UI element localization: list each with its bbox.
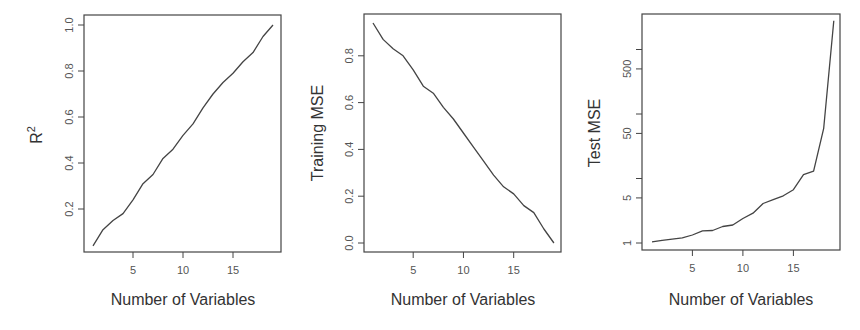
chart-figure: 0.20.40.60.81.0 51015 Number of Variable… — [0, 0, 860, 330]
y-tick-label: 500 — [621, 60, 633, 78]
x-tick-label: 5 — [410, 264, 416, 276]
panel-training-mse: 0.00.20.40.60.8 51015 Number of Variable… — [309, 14, 561, 308]
panel-r-squared: 0.20.40.60.81.0 51015 Number of Variable… — [25, 15, 281, 308]
y-tick-label: 50 — [621, 127, 633, 139]
test-mse-line — [652, 21, 834, 242]
y-tick-label: 0.6 — [343, 95, 355, 110]
y-tick-label: 1.0 — [63, 17, 75, 32]
y-axis: 1550500 — [621, 50, 642, 247]
x-tick-label: 5 — [689, 262, 695, 274]
y-axis: 0.20.40.60.81.0 — [63, 17, 84, 216]
y-tick-label: 0.4 — [343, 142, 355, 157]
y-tick-label: 0.0 — [343, 235, 355, 250]
y-tick-label: 0.2 — [63, 201, 75, 216]
plot-frame — [642, 14, 840, 250]
x-axis: 51015 — [410, 252, 520, 276]
y-tick-label: 1 — [621, 240, 633, 246]
y-tick-label: 0.8 — [343, 48, 355, 63]
x-axis-label: Number of Variables — [391, 291, 536, 308]
x-tick-label: 10 — [457, 264, 469, 276]
x-tick-label: 5 — [130, 264, 136, 276]
y-tick-label: 0.6 — [63, 109, 75, 124]
x-axis-label: Number of Variables — [669, 291, 814, 308]
training-mse-line — [373, 23, 554, 243]
x-axis: 51015 — [689, 250, 799, 274]
x-tick-label: 15 — [787, 262, 799, 274]
y-axis-label: Test MSE — [586, 99, 603, 167]
y-tick-label: 0.8 — [63, 63, 75, 78]
y-tick-label: 0.2 — [343, 189, 355, 204]
panel-test-mse: 1550500 51015 Number of Variables Test M… — [586, 14, 840, 308]
y-axis-label: R2 — [25, 126, 45, 144]
x-tick-label: 15 — [508, 264, 520, 276]
y-axis-label: Training MSE — [309, 85, 326, 181]
y-axis: 0.00.20.40.60.8 — [343, 48, 364, 250]
x-tick-label: 10 — [737, 262, 749, 274]
r-squared-line — [93, 25, 273, 246]
y-tick-label: 5 — [621, 195, 633, 201]
x-axis: 51015 — [130, 252, 239, 276]
plot-frame — [84, 15, 281, 252]
x-axis-label: Number of Variables — [111, 291, 256, 308]
x-tick-label: 15 — [227, 264, 239, 276]
y-tick-label: 0.4 — [63, 155, 75, 170]
x-tick-label: 10 — [177, 264, 189, 276]
